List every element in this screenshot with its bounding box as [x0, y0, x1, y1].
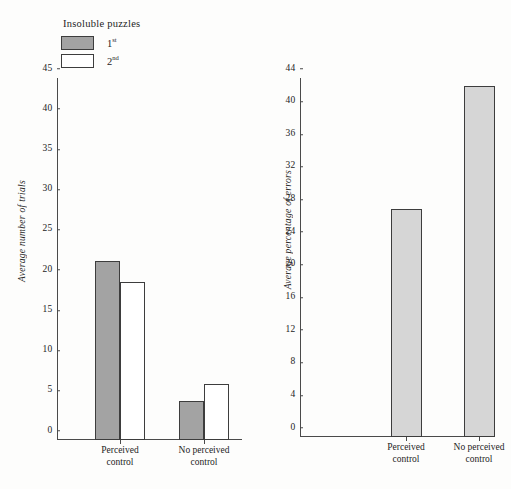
chart-errors-y-axis: [300, 78, 301, 437]
y-axis-tick: 36: [286, 129, 300, 139]
chart-trials-plot-area: 051015202530354045Perceived controlNo pe…: [57, 78, 242, 440]
chart-errors: Average percentage of errors 04812162024…: [260, 0, 511, 489]
y-axis-tick: 44: [286, 64, 300, 74]
y-axis-tick: 32: [286, 162, 300, 172]
y-axis-tick: 12: [286, 325, 300, 335]
y-axis-tick: 16: [286, 292, 300, 302]
y-axis-tick: 28: [286, 194, 300, 204]
y-axis-tick: 4: [291, 390, 300, 400]
y-axis-tick: 24: [286, 227, 300, 237]
y-axis-tick: 15: [43, 305, 57, 315]
bar: [179, 401, 204, 440]
y-axis-tick: 20: [43, 265, 57, 275]
y-axis-tick: 35: [43, 144, 57, 154]
y-axis-tick: 8: [291, 357, 300, 367]
bar: [464, 86, 495, 437]
chart-trials-y-axis-label: Average number of trials: [17, 180, 27, 282]
x-axis-group-label: No perceived control: [424, 442, 511, 465]
y-axis-tick: 40: [286, 96, 300, 106]
x-axis-tick: [479, 437, 480, 441]
y-axis-tick: 45: [43, 64, 57, 74]
y-axis-tick: 0: [48, 426, 57, 436]
y-axis-tick: 5: [48, 386, 57, 396]
chart-trials-y-axis: [57, 78, 58, 440]
x-axis-tick: [120, 440, 121, 444]
y-axis-tick: 0: [291, 423, 300, 433]
y-axis-tick: 40: [43, 104, 57, 114]
x-axis-group-label: No perceived control: [149, 445, 259, 468]
x-axis-tick: [406, 437, 407, 441]
bar: [120, 282, 145, 440]
x-axis-tick: [204, 440, 205, 444]
chart-errors-plot-area: 048121620242832364044Perceived controlNo…: [300, 78, 495, 437]
y-axis-tick: 10: [43, 345, 57, 355]
chart-trials: Average number of trials 051015202530354…: [0, 0, 260, 489]
bar: [391, 209, 422, 437]
y-axis-tick: 25: [43, 225, 57, 235]
bar: [204, 384, 229, 440]
y-axis-tick: 20: [286, 260, 300, 270]
y-axis-tick: 30: [43, 184, 57, 194]
bar: [95, 261, 120, 440]
figure-canvas: Insoluble puzzles 1st 2nd Average number…: [0, 0, 511, 489]
